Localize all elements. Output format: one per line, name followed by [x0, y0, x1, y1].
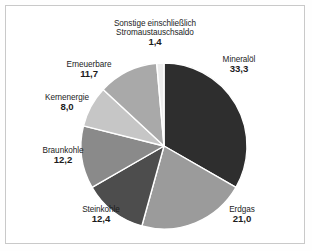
slice-value-braunkohle: 12,2	[20, 155, 106, 166]
pie-chart-screenshot: Sonstige einschließlich Stromaustauschsa…	[0, 0, 312, 251]
slice-label-erdgas: Erdgas 21,0	[206, 205, 278, 225]
slice-label-sonstige: Sonstige einschließlich Stromaustauschsa…	[96, 19, 214, 48]
slice-value-mineraloel: 33,3	[198, 64, 280, 75]
slice-label-mineraloel: Mineralöl 33,3	[198, 55, 280, 75]
slice-value-erdgas: 21,0	[206, 214, 278, 225]
slice-value-erneuerbare: 11,7	[46, 69, 132, 80]
slice-label-kernenergie: Kernenergie 8,0	[24, 93, 110, 113]
slice-label-braunkohle: Braunkohle 12,2	[20, 146, 106, 166]
slice-value-steinkohle: 12,4	[58, 214, 144, 225]
slice-label-sonstige-line1: Sonstige einschließlich	[96, 19, 214, 28]
slice-value-sonstige: 1,4	[96, 37, 214, 48]
slice-label-erneuerbare: Erneuerbare 11,7	[46, 60, 132, 80]
slice-value-kernenergie: 8,0	[24, 102, 110, 113]
slice-label-steinkohle: Steinkohle 12,4	[58, 205, 144, 225]
